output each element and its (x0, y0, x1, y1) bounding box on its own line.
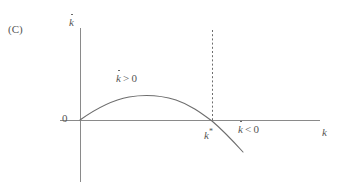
phase-diagram-svg (0, 0, 337, 191)
x-axis-label-symbol: k (322, 126, 327, 138)
kdot-negative-region-label: k < 0 (238, 124, 259, 135)
kdot-positive-symbol: k (116, 73, 121, 84)
y-axis-label-symbol: k (69, 17, 74, 28)
panel-label: (C) (8, 24, 23, 35)
origin-label: 0 (62, 113, 68, 124)
y-axis-label: k (69, 17, 74, 28)
kdot-positive-relation: > 0 (121, 72, 137, 84)
kdot-positive-region-label: k > 0 (116, 73, 137, 84)
kdot-curve (80, 96, 243, 152)
top-edge-artifact: " (196, 0, 200, 5)
x-axis-label: k (322, 127, 327, 138)
steady-state-superscript: * (209, 127, 213, 136)
steady-state-label: k* (204, 128, 213, 141)
kdot-negative-symbol: k (238, 124, 243, 135)
kdot-negative-relation: < 0 (243, 123, 259, 135)
figure-container: (C) k 0 k k > 0 k < 0 k* " (0, 0, 337, 191)
